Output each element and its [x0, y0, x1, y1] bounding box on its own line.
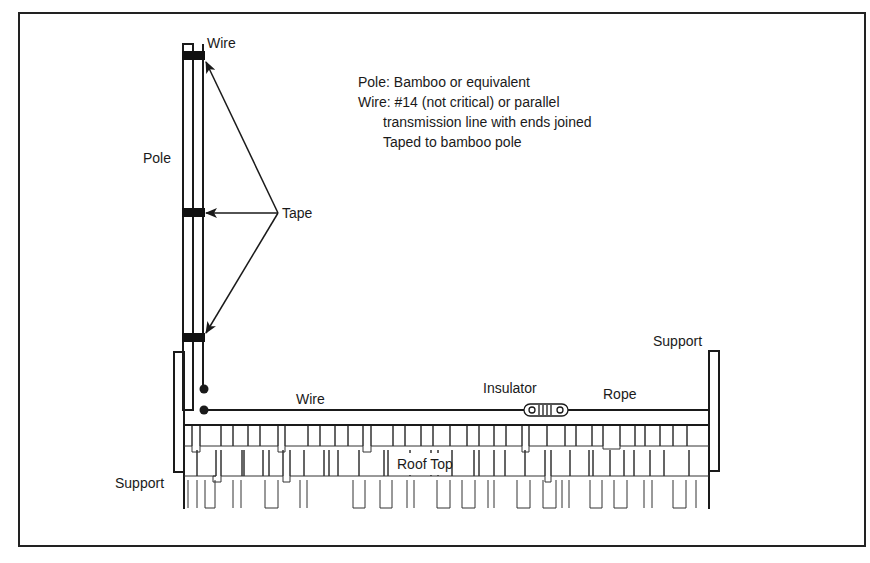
right-support: [709, 351, 719, 471]
label-rope: Rope: [603, 386, 637, 402]
label-pole: Pole: [143, 150, 171, 166]
label-tape: Tape: [282, 205, 313, 221]
label-support-right: Support: [653, 333, 702, 349]
note-pole: Pole: Bamboo or equivalent: [358, 72, 592, 92]
note-transmission-line: transmission line with ends joined: [358, 112, 592, 132]
label-support-left: Support: [115, 475, 164, 491]
label-roof-top: Roof Top: [397, 456, 453, 472]
feed-point-top: [200, 385, 209, 394]
label-wire-horizontal: Wire: [296, 391, 325, 407]
label-wire-top: Wire: [207, 35, 236, 51]
insulator-icon: [524, 404, 568, 416]
tape-arrows: [206, 62, 278, 333]
note-wire: Wire: #14 (not critical) or parallel: [358, 92, 592, 112]
label-insulator: Insulator: [483, 380, 537, 396]
notes-block: Pole: Bamboo or equivalent Wire: #14 (no…: [358, 72, 592, 152]
note-taped: Taped to bamboo pole: [358, 132, 592, 152]
